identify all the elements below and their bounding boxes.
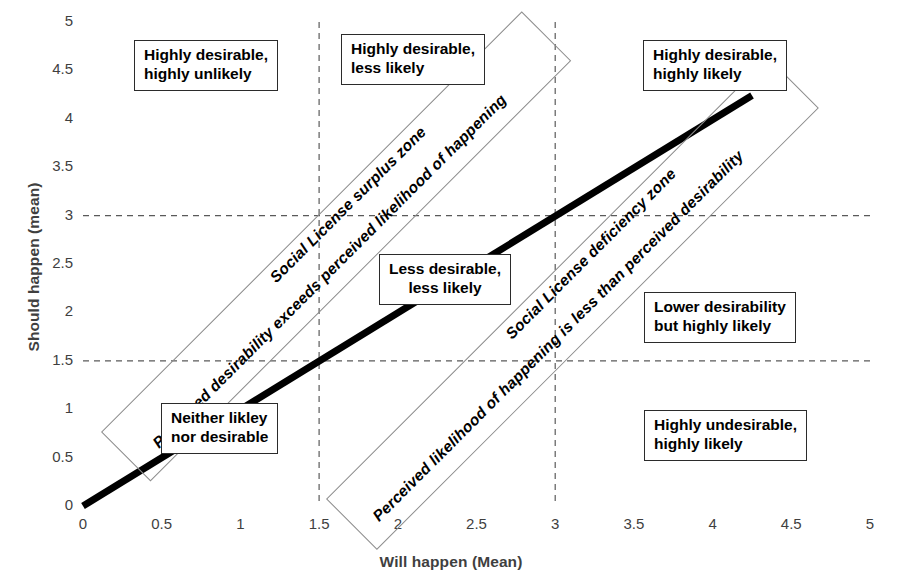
label-box-less-desirable-less-likely: Less desirable,less likely	[379, 254, 511, 305]
x-tick-label: 5	[848, 515, 892, 532]
label-line-1: Lower desirability	[654, 298, 786, 315]
label-box-neither-likely-nor-desirable: Neither likleynor desirable	[161, 403, 278, 454]
label-line-2: but highly likely	[654, 317, 771, 334]
y-tick-label: 1	[29, 399, 73, 416]
label-line-2: highly unlikely	[144, 65, 252, 82]
chart-canvas: Should happen (mean) Will happen (Mean) …	[0, 0, 902, 585]
x-tick-label: 1	[218, 515, 262, 532]
y-tick-label: 0	[29, 496, 73, 513]
plot-area: Social License surplus zone Perceived de…	[83, 22, 870, 506]
label-line-1: Highly desirable,	[144, 46, 268, 63]
y-tick-label: 4	[29, 109, 73, 126]
label-line-1: Highly undesirable,	[654, 416, 797, 433]
y-tick-label: 4.5	[29, 60, 73, 77]
x-tick-label: 4.5	[769, 515, 813, 532]
x-tick-label: 4	[691, 515, 735, 532]
label-box-highly-undesirable-highly-likely: Highly undesirable,highly likely	[644, 410, 807, 461]
x-tick-label: 2.5	[455, 515, 499, 532]
y-tick-label: 0.5	[29, 448, 73, 465]
label-box-lower-desirability-but-highly-likely: Lower desirabilitybut highly likely	[644, 292, 796, 343]
label-line-2: highly likely	[654, 435, 743, 452]
label-line-2: less likely	[351, 59, 424, 76]
y-tick-label: 2.5	[29, 254, 73, 271]
label-box-highly-desirable-highly-likely: Highly desirable,highly likely	[643, 40, 787, 91]
label-line-1: Less desirable,	[389, 260, 501, 277]
y-tick-label: 3	[29, 206, 73, 223]
label-line-1: Neither likley	[171, 409, 268, 426]
y-tick-label: 2	[29, 302, 73, 319]
x-axis-title: Will happen (Mean)	[0, 553, 902, 571]
y-tick-label: 3.5	[29, 157, 73, 174]
label-box-highly-desirable-less-likely: Highly desirable,less likely	[341, 34, 485, 85]
label-line-2: highly likely	[653, 65, 742, 82]
y-tick-label: 5	[29, 12, 73, 29]
x-tick-label: 3	[533, 515, 577, 532]
label-line-1: Highly desirable,	[653, 46, 777, 63]
label-line-1: Highly desirable,	[351, 40, 475, 57]
x-tick-label: 0	[61, 515, 105, 532]
label-line-2: less likely	[408, 279, 481, 296]
x-tick-label: 0.5	[140, 515, 184, 532]
label-box-highly-desirable-highly-unlikely: Highly desirable,highly unlikely	[134, 40, 278, 91]
label-line-2: nor desirable	[171, 428, 268, 445]
x-tick-label: 1.5	[297, 515, 341, 532]
x-tick-label: 3.5	[612, 515, 656, 532]
y-tick-label: 1.5	[29, 351, 73, 368]
